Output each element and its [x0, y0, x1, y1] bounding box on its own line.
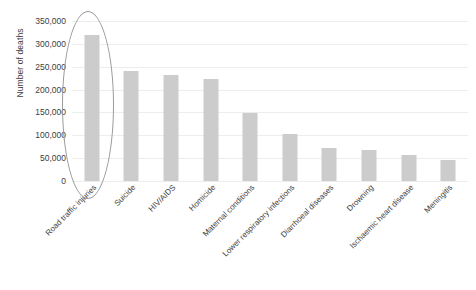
bar-slot	[191, 21, 231, 181]
bar-series	[72, 21, 468, 181]
y-axis-tick-label: 200,000	[6, 85, 66, 95]
bar	[361, 150, 376, 181]
bar-slot	[349, 21, 389, 181]
bar	[322, 148, 337, 181]
bar	[401, 155, 416, 182]
y-axis-tick-label: 0	[6, 176, 66, 186]
bar-slot	[72, 21, 112, 181]
plot-area: 050,000100,000150,000200,000250,000300,0…	[72, 21, 468, 181]
bar-slot	[230, 21, 270, 181]
bar	[124, 71, 139, 181]
bar-slot	[389, 21, 429, 181]
bar	[84, 35, 99, 181]
bar	[441, 160, 456, 181]
bar	[163, 75, 178, 181]
bar-slot	[112, 21, 152, 181]
y-axis-tick-label: 250,000	[6, 62, 66, 72]
x-axis-labels: Road traffic injuriesSuicideHIV/AIDSHomi…	[72, 183, 468, 288]
bar-slot	[310, 21, 350, 181]
bar-slot	[270, 21, 310, 181]
y-axis-tick-label: 350,000	[6, 16, 66, 26]
bar	[203, 79, 218, 181]
bar-chart: Number of deaths 050,000100,000150,00020…	[0, 0, 476, 290]
y-axis-tick-label: 50,000	[6, 153, 66, 163]
y-axis-tick-label: 300,000	[6, 39, 66, 49]
y-axis-tick-label: 100,000	[6, 130, 66, 140]
bar	[243, 113, 258, 181]
bar-slot	[428, 21, 468, 181]
bar-slot	[151, 21, 191, 181]
y-axis-tick-label: 150,000	[6, 107, 66, 117]
bar	[282, 134, 297, 181]
